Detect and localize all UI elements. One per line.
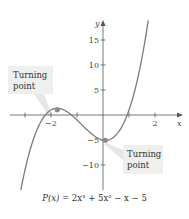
turning-point-max xyxy=(55,107,60,112)
callout-max-line1: Turning xyxy=(13,70,48,80)
y-tick-label: 5 xyxy=(94,86,99,95)
x-axis-label: x xyxy=(177,119,182,128)
callout-max: Turning point xyxy=(8,66,53,94)
callout-min: Turning point xyxy=(123,145,163,174)
callout-min-line1: Turning xyxy=(127,149,162,159)
y-tick-label: 10 xyxy=(89,61,99,70)
polynomial-chart: −2215105−5−10 x y Turning point Turning … xyxy=(0,0,189,190)
x-tick-label: 2 xyxy=(152,119,157,128)
formula-lhs: P(x) xyxy=(42,193,59,203)
callout-tail-min xyxy=(104,143,123,160)
callout-max-line2: point xyxy=(13,81,36,91)
callout-tail-max xyxy=(34,94,52,116)
y-tick-label: 15 xyxy=(89,36,99,45)
y-axis-arrow xyxy=(101,20,106,26)
function-formula: P(x) = 2x³ + 5x² − x − 5 xyxy=(0,193,189,203)
formula-rhs: = 2x³ + 5x² − x − 5 xyxy=(62,193,147,203)
callout-min-line2: point xyxy=(127,160,150,170)
turning-point-min xyxy=(103,138,108,143)
y-axis-label: y xyxy=(94,19,100,28)
y-tick-label: −10 xyxy=(82,161,99,170)
x-axis-arrow xyxy=(177,113,183,118)
x-tick-label: −2 xyxy=(45,119,57,128)
